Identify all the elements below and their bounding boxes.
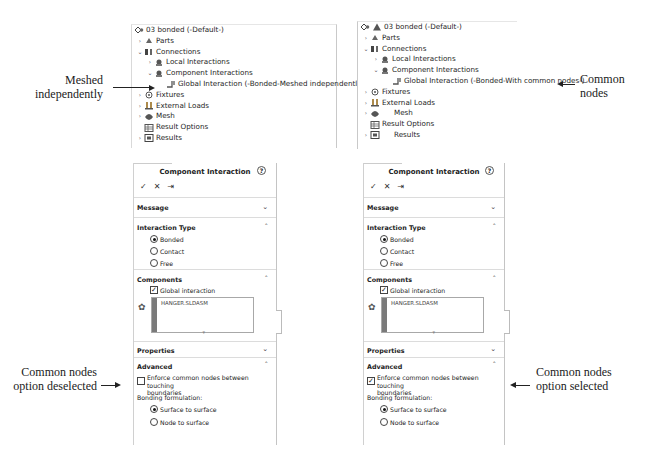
pin-button[interactable]: ⇥ bbox=[167, 182, 174, 191]
radio-free[interactable]: Free bbox=[150, 259, 173, 267]
tree-item-component-interactions[interactable]: ⌄ Component Interactions bbox=[132, 68, 336, 79]
chevron-up-icon[interactable]: ˄ bbox=[493, 223, 497, 231]
tree-item-result-options[interactable]: Result Options bbox=[358, 119, 517, 130]
radio-bonded[interactable]: Bonded bbox=[150, 235, 184, 243]
tree-item-results[interactable]: › Results bbox=[132, 133, 336, 144]
tree-root[interactable]: 03 bonded (-Default-) bbox=[358, 22, 517, 33]
cancel-button[interactable]: ✕ bbox=[384, 182, 391, 191]
chevron-up-icon[interactable]: ˄ bbox=[265, 361, 269, 369]
chevron-down-icon[interactable]: ⌄ bbox=[262, 203, 268, 211]
radio-button[interactable] bbox=[150, 235, 158, 243]
tree-item-parts[interactable]: › Parts bbox=[132, 36, 336, 47]
tree-item-external-loads[interactable]: › External Loads bbox=[132, 101, 336, 112]
expand-icon[interactable]: › bbox=[136, 111, 144, 122]
components-icon: ✿ bbox=[138, 302, 146, 312]
ok-button[interactable]: ✓ bbox=[370, 182, 377, 191]
expand-icon[interactable]: › bbox=[136, 101, 144, 112]
radio-contact[interactable]: Contact bbox=[380, 247, 414, 255]
chevron-up-icon[interactable]: ˄ bbox=[493, 361, 497, 369]
chevron-down-icon[interactable]: ⌄ bbox=[262, 345, 268, 353]
tree-item-external-loads[interactable]: › External Loads bbox=[358, 98, 517, 109]
radio-free[interactable]: Free bbox=[380, 259, 403, 267]
expand-icon[interactable]: › bbox=[362, 33, 370, 44]
radio-contact[interactable]: Contact bbox=[150, 247, 184, 255]
radio-surface-to-surface[interactable]: Surface to surface bbox=[150, 405, 217, 413]
tree-item-mesh[interactable]: › Mesh bbox=[132, 111, 336, 122]
radio-button[interactable] bbox=[150, 247, 158, 255]
radio-button[interactable] bbox=[380, 405, 388, 413]
tree-item-local-interactions[interactable]: › Local Interactions bbox=[132, 57, 336, 68]
section-message[interactable]: Message ⌄ bbox=[134, 197, 276, 217]
tree-root[interactable]: 03 bonded (-Default-) bbox=[132, 25, 336, 36]
radio-button[interactable] bbox=[150, 418, 158, 426]
checkbox[interactable] bbox=[137, 377, 145, 385]
expand-icon[interactable]: › bbox=[136, 36, 144, 47]
radio-button[interactable] bbox=[380, 235, 388, 243]
radio-button[interactable] bbox=[150, 405, 158, 413]
section-message[interactable]: Message ⌄ bbox=[364, 197, 504, 217]
checkbox-global-interaction[interactable]: ✓Global interaction bbox=[150, 286, 215, 294]
tree-item-mesh[interactable]: › Mesh bbox=[358, 108, 517, 119]
resize-handle[interactable]: ▾ bbox=[433, 329, 436, 335]
chevron-up-icon[interactable]: ˄ bbox=[493, 275, 497, 283]
tree-item-fixtures[interactable]: › Fixtures bbox=[358, 87, 517, 98]
radio-button[interactable] bbox=[150, 259, 158, 267]
tree-item-global-interaction[interactable]: Global Interaction (-Bonded-Meshed indep… bbox=[132, 79, 336, 90]
expand-icon[interactable]: › bbox=[362, 98, 370, 109]
expand-icon[interactable]: › bbox=[136, 90, 144, 101]
radio-button[interactable] bbox=[380, 247, 388, 255]
radio-bonded[interactable]: Bonded bbox=[380, 235, 414, 243]
radio-node-to-surface[interactable]: Node to surface bbox=[150, 418, 209, 426]
tree-item-connections[interactable]: ⌄ Connections bbox=[132, 47, 336, 58]
expand-icon[interactable]: › bbox=[362, 130, 370, 141]
help-icon[interactable]: ? bbox=[257, 166, 266, 175]
panel-actions: ✓ ✕ ⇥ bbox=[140, 182, 174, 191]
help-icon[interactable]: ? bbox=[485, 166, 494, 175]
radio-button[interactable] bbox=[380, 259, 388, 267]
chevron-up-icon[interactable]: ˄ bbox=[265, 275, 269, 283]
tree-item-component-interactions[interactable]: ⌄ Component Interactions bbox=[358, 65, 517, 76]
cancel-button[interactable]: ✕ bbox=[154, 182, 161, 191]
tree-item-results[interactable]: › Results bbox=[358, 130, 517, 141]
collapse-icon[interactable]: ⌄ bbox=[146, 68, 154, 79]
radio-surface-to-surface[interactable]: Surface to surface bbox=[380, 405, 447, 413]
radio-button[interactable] bbox=[380, 418, 388, 426]
chevron-up-icon[interactable]: ˄ bbox=[265, 223, 269, 231]
panel-side-tab[interactable] bbox=[276, 310, 282, 334]
resize-handle[interactable]: ▾ bbox=[203, 329, 206, 335]
ok-button[interactable]: ✓ bbox=[140, 182, 147, 191]
checkbox[interactable]: ✓ bbox=[367, 377, 375, 385]
radio-node-to-surface[interactable]: Node to surface bbox=[380, 418, 439, 426]
study-icon bbox=[360, 23, 370, 31]
tree-item-fixtures[interactable]: › Fixtures bbox=[132, 90, 336, 101]
tree-item-parts[interactable]: › Parts bbox=[358, 33, 517, 44]
external-loads-icon bbox=[144, 102, 154, 110]
tree-item-connections[interactable]: ⌄ Connections bbox=[358, 44, 517, 55]
expand-icon[interactable]: › bbox=[362, 87, 370, 98]
components-listbox[interactable]: HANGER.SLDASM ▾ bbox=[381, 297, 484, 333]
listbox-item[interactable]: HANGER.SLDASM bbox=[161, 300, 208, 306]
checkbox-global-interaction[interactable]: ✓Global interaction bbox=[380, 286, 445, 294]
listbox-selection-bar bbox=[152, 298, 157, 332]
collapse-icon[interactable]: ⌄ bbox=[136, 47, 144, 58]
section-properties[interactable]: Properties ⌄ bbox=[364, 341, 504, 357]
expand-icon[interactable]: › bbox=[136, 133, 144, 144]
section-properties[interactable]: Properties ⌄ bbox=[134, 341, 276, 357]
tree-item-local-interactions[interactable]: › Local Interactions bbox=[358, 54, 517, 65]
listbox-item[interactable]: HANGER.SLDASM bbox=[391, 300, 438, 306]
checkbox[interactable]: ✓ bbox=[150, 286, 158, 294]
components-listbox[interactable]: HANGER.SLDASM ▾ bbox=[151, 297, 254, 333]
collapse-icon[interactable]: ⌄ bbox=[372, 65, 380, 76]
expand-icon[interactable]: › bbox=[146, 57, 154, 68]
tree-item-global-interaction[interactable]: Global Interaction (-Bonded-With common … bbox=[358, 76, 517, 87]
tree-item-result-options[interactable]: Result Options bbox=[132, 122, 336, 133]
pin-button[interactable]: ⇥ bbox=[397, 182, 404, 191]
chevron-down-icon[interactable]: ⌄ bbox=[490, 203, 496, 211]
panel-side-tab[interactable] bbox=[504, 310, 510, 334]
collapse-icon[interactable]: ⌄ bbox=[362, 44, 370, 55]
expand-icon[interactable]: › bbox=[362, 108, 370, 119]
arrow-meshed-independently bbox=[113, 87, 151, 88]
checkbox[interactable]: ✓ bbox=[380, 286, 388, 294]
expand-icon[interactable]: › bbox=[372, 54, 380, 65]
chevron-down-icon[interactable]: ⌄ bbox=[490, 345, 496, 353]
